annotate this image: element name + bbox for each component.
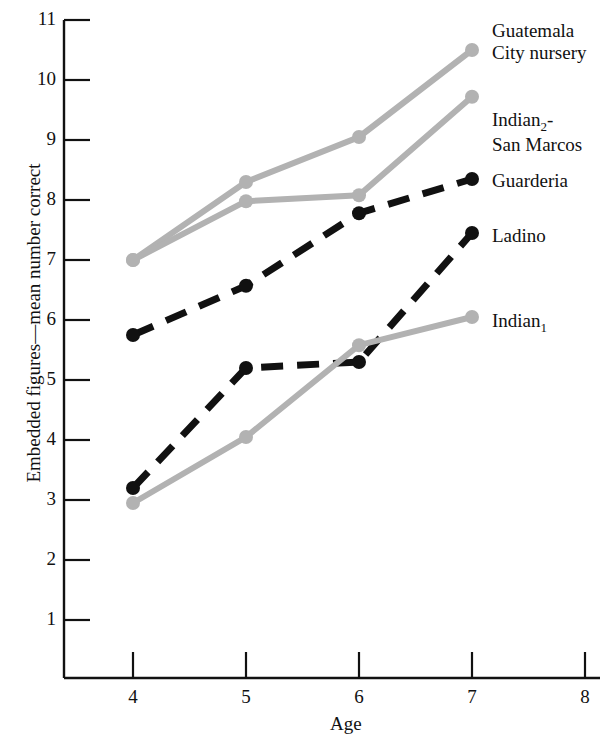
data-point: [352, 130, 366, 144]
y-axis-title: Embedded figures—mean number correct: [23, 123, 45, 523]
legend-label-line: Indian2-: [492, 109, 582, 134]
series-line-ladino: [133, 233, 472, 488]
legend-label-line: Ladino: [492, 225, 546, 247]
legend-label-line: Guarderia: [492, 170, 568, 192]
data-point: [239, 361, 253, 375]
x-tick-label: 5: [231, 686, 261, 708]
x-tick-label: 6: [344, 686, 374, 708]
series-line-guarderia: [133, 179, 472, 335]
data-point: [239, 430, 253, 444]
series-line-guatemala-city-nursery: [133, 50, 472, 260]
data-point: [126, 253, 140, 267]
legend-label-base: Indian: [492, 109, 541, 130]
data-point: [352, 188, 366, 202]
y-tick-label: 1: [22, 608, 56, 630]
data-point: [352, 355, 366, 369]
legend-label-line: Guatemala: [492, 20, 586, 42]
data-point: [126, 481, 140, 495]
y-tick-label: 11: [22, 8, 56, 30]
series-line-indian1: [133, 317, 472, 503]
series-line-indian2-san-marcos: [133, 97, 472, 260]
data-point: [465, 43, 479, 57]
x-tick-label: 4: [118, 686, 148, 708]
legend-ladino: Ladino: [492, 225, 546, 247]
legend-label-base: Indian: [492, 310, 541, 331]
chart-figure: 11 10 9 8 7 6 5 4 3 2 1 4 5 6 7 8 Embedd…: [0, 0, 606, 739]
data-point: [465, 310, 479, 324]
x-axis-ticks: [133, 652, 585, 678]
data-point: [126, 328, 140, 342]
legend-guarderia: Guarderia: [492, 170, 568, 192]
data-point: [352, 206, 366, 220]
x-tick-label: 7: [457, 686, 487, 708]
data-point: [239, 194, 253, 208]
legend-label-line: San Marcos: [492, 134, 582, 156]
data-point: [239, 279, 253, 293]
x-tick-label: 8: [570, 686, 600, 708]
y-tick-label: 10: [22, 68, 56, 90]
data-point: [126, 496, 140, 510]
legend-label-line: City nursery: [492, 42, 586, 64]
data-point: [239, 175, 253, 189]
legend-indian2-san-marcos: Indian2- San Marcos: [492, 109, 582, 156]
legend-indian1: Indian1: [492, 310, 547, 335]
y-tick-label: 2: [22, 548, 56, 570]
legend-label-line: Indian1: [492, 310, 547, 335]
data-point: [465, 90, 479, 104]
legend-guatemala-city-nursery: Guatemala City nursery: [492, 20, 586, 64]
series-layer: [126, 43, 479, 510]
data-point: [465, 226, 479, 240]
legend-label-tail: -: [547, 109, 553, 130]
legend-label-subscript: 1: [541, 320, 548, 335]
data-point: [465, 172, 479, 186]
y-axis-ticks: [64, 20, 90, 620]
x-axis-title: Age: [330, 713, 362, 735]
data-point: [352, 338, 366, 352]
